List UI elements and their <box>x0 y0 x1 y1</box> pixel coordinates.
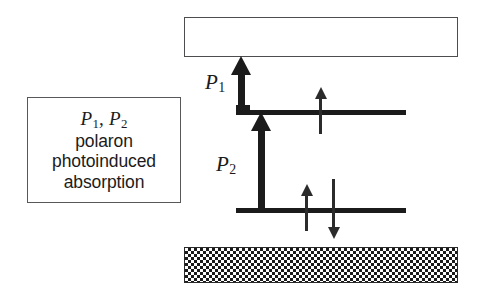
p1-label-letter: P <box>205 70 218 94</box>
spin-arrow-head-up <box>315 87 327 99</box>
legend-symbol-p1-letter: P <box>81 108 93 129</box>
legend-symbol-p2-subscript: 2 <box>121 115 127 130</box>
upper-band-rectangle <box>184 17 458 57</box>
p2-label-subscript: 2 <box>229 162 236 177</box>
spin-arrow-head-up <box>301 184 313 196</box>
p1-arrow-shaft <box>238 70 245 114</box>
legend-symbol-p2-letter: , P <box>99 108 121 129</box>
legend-symbols-line: P1, P2 <box>81 108 128 131</box>
lower-level-spin-down-arrow-icon <box>327 179 340 239</box>
spin-shaft <box>305 193 308 231</box>
p2-transition-arrow-icon <box>251 112 271 210</box>
p2-label-letter: P <box>216 152 229 176</box>
lower-level-spin-up-arrow-icon <box>300 184 313 231</box>
p2-transition-label: P2 <box>216 152 236 178</box>
upper-level-spin-up-arrow-icon <box>314 87 327 134</box>
p1-transition-label: P1 <box>205 70 225 96</box>
legend-box: P1, P2 polaron photoinduced absorption <box>27 97 181 203</box>
legend-line-3: absorption <box>64 172 145 193</box>
p1-label-subscript: 1 <box>218 80 225 95</box>
lower-checkerboard-band-rectangle <box>184 247 458 283</box>
spin-shaft <box>332 179 335 230</box>
legend-line-2: photoinduced <box>52 151 156 172</box>
energy-level-diagram: P1, P2 polaron photoinduced absorption P… <box>0 0 483 299</box>
spin-shaft <box>319 96 322 134</box>
p2-arrow-shaft <box>258 127 265 210</box>
p1-transition-arrow-icon <box>231 56 251 114</box>
legend-line-1: polaron <box>75 131 133 152</box>
p2-arrow-head <box>251 112 271 131</box>
spin-arrow-head-down <box>328 227 340 239</box>
p1-arrow-head <box>231 56 251 75</box>
